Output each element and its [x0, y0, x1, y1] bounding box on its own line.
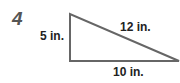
bottom-side-label: 10 in. [113, 65, 144, 79]
right-triangle-diagram [0, 0, 180, 83]
hypotenuse-label: 12 in. [120, 20, 151, 34]
left-side-label: 5 in. [40, 29, 64, 43]
